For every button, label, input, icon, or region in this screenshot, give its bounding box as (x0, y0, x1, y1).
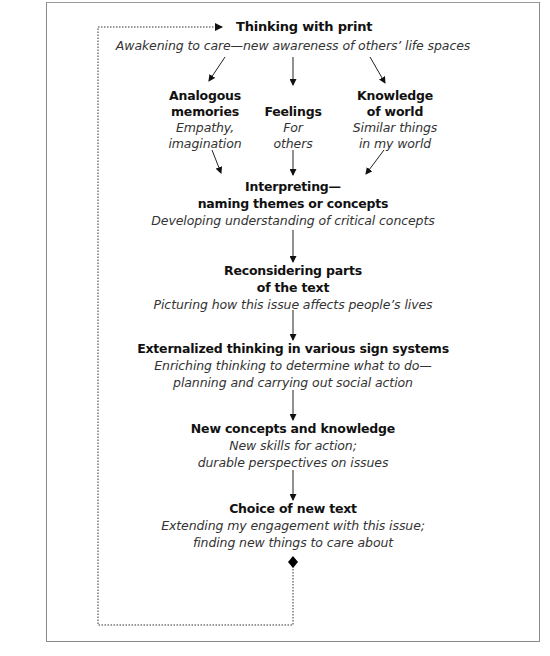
stage-heading: New concepts and knowledge (93, 420, 493, 437)
diagram-title: Thinking with print (236, 18, 372, 35)
branch-analogous-memories: Analogous memories Empathy, imagination (150, 88, 260, 152)
stage-choice-of-new-text: Choice of new text Extending my engageme… (93, 500, 493, 551)
stage-heading: of the text (93, 279, 493, 296)
branch-detail: Similar things (335, 120, 455, 136)
branch-detail: Empathy, (150, 120, 260, 136)
stage-reconsidering: Reconsidering parts of the text Picturin… (93, 262, 493, 313)
branch-detail: in my world (335, 136, 455, 152)
branch-knowledge-of-world: Knowledge of world Similar things in my … (335, 88, 455, 152)
stage-detail: durable perspectives on issues (93, 454, 493, 471)
branch-heading: Feelings (248, 104, 338, 120)
branch-heading: of world (335, 104, 455, 120)
stage-detail: Picturing how this issue affects people’… (93, 296, 493, 313)
stage-heading: Choice of new text (93, 500, 493, 517)
branch-heading (248, 88, 338, 104)
stage-heading: Interpreting— (93, 178, 493, 195)
stage-detail: planning and carrying out social action (93, 374, 493, 391)
branch-heading: Knowledge (335, 88, 455, 104)
stage-heading: Reconsidering parts (93, 262, 493, 279)
diamond-marker (288, 556, 298, 568)
stage-detail: Extending my engagement with this issue; (93, 517, 493, 534)
branch-detail: others (248, 136, 338, 152)
branch-heading: Analogous (150, 88, 260, 104)
diagram-subtitle: Awakening to care—new awareness of other… (93, 37, 493, 54)
stage-detail: finding new things to care about (93, 534, 493, 551)
stage-new-concepts: New concepts and knowledge New skills fo… (93, 420, 493, 471)
stage-detail: New skills for action; (93, 437, 493, 454)
branch-detail: imagination (150, 136, 260, 152)
branch-heading: memories (150, 104, 260, 120)
branch-feelings: Feelings For others (248, 88, 338, 152)
stage-interpreting: Interpreting— naming themes or concepts … (93, 178, 493, 229)
stage-detail: Enriching thinking to determine what to … (93, 357, 493, 374)
stage-externalized-thinking: Externalized thinking in various sign sy… (93, 340, 493, 391)
stage-heading: naming themes or concepts (93, 195, 493, 212)
stage-heading: Externalized thinking in various sign sy… (93, 340, 493, 357)
branch-detail: For (248, 120, 338, 136)
stage-detail: Developing understanding of critical con… (93, 212, 493, 229)
